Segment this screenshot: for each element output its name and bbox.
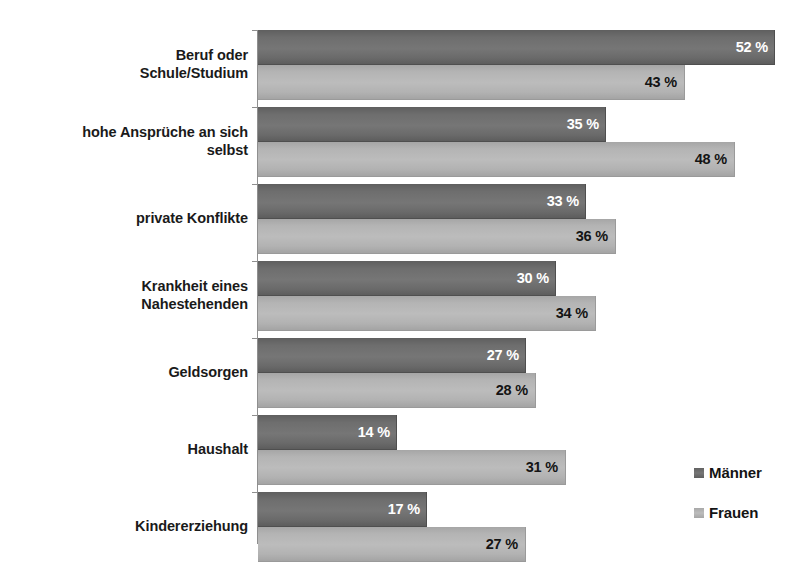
category-label-5: Haushalt (188, 441, 248, 459)
bar-value-label: 48 % (695, 151, 727, 167)
category-label-line: Beruf oder (140, 47, 248, 65)
bar-value-label: 14 % (358, 424, 390, 440)
bar-value-label: 35 % (567, 116, 599, 132)
bar-frauen-0: 43 % (258, 65, 685, 100)
bar-group: 52 %43 % (258, 30, 803, 100)
category-label-column: Beruf oderSchule/Studiumhohe Ansprüche a… (0, 30, 248, 544)
bar-frauen-1: 48 % (258, 142, 735, 177)
category-label-4: Geldsorgen (168, 364, 248, 382)
bar-mnner-6: 17 % (258, 492, 427, 527)
category-label-line: Geldsorgen (168, 364, 248, 382)
bar-frauen-2: 36 % (258, 219, 616, 254)
chart-legend: MännerFrauen (694, 464, 762, 544)
category-label-line: Krankheit eines (141, 278, 248, 296)
legend-swatch-icon (694, 508, 704, 518)
category-label-line: Nahestehenden (141, 296, 248, 314)
bar-frauen-5: 31 % (258, 450, 566, 485)
category-label-line: selbst (82, 142, 248, 160)
category-label-line: private Konflikte (136, 210, 248, 228)
bar-value-label: 36 % (576, 228, 608, 244)
category-label-3: Krankheit einesNahestehenden (141, 278, 248, 313)
bar-value-label: 31 % (526, 459, 558, 475)
bar-mnner-0: 52 % (258, 30, 775, 65)
bar-value-label: 52 % (736, 39, 768, 55)
category-label-line: Schule/Studium (140, 65, 248, 83)
bar-value-label: 27 % (487, 347, 519, 363)
bar-mnner-5: 14 % (258, 415, 397, 450)
bar-mnner-2: 33 % (258, 184, 586, 219)
bar-value-label: 33 % (547, 193, 579, 209)
bar-mnner-3: 30 % (258, 261, 556, 296)
category-label-line: hohe Ansprüche an sich (82, 124, 248, 142)
legend-item-frauen[interactable]: Frauen (694, 504, 762, 521)
bar-frauen-6: 27 % (258, 527, 526, 562)
bar-group: 27 %28 % (258, 338, 803, 408)
bar-value-label: 17 % (388, 501, 420, 517)
bar-group: 35 %48 % (258, 107, 803, 177)
category-label-0: Beruf oderSchule/Studium (140, 47, 248, 82)
category-label-1: hohe Ansprüche an sichselbst (82, 124, 248, 159)
bar-group: 30 %34 % (258, 261, 803, 331)
bar-value-label: 28 % (496, 382, 528, 398)
bar-mnner-1: 35 % (258, 107, 606, 142)
bar-group: 33 %36 % (258, 184, 803, 254)
bar-value-label: 27 % (486, 536, 518, 552)
bar-value-label: 43 % (645, 74, 677, 90)
category-label-2: private Konflikte (136, 210, 248, 228)
bar-value-label: 34 % (556, 305, 588, 321)
legend-item-mnner[interactable]: Männer (694, 464, 762, 481)
bar-chart: Beruf oderSchule/Studiumhohe Ansprüche a… (0, 0, 803, 566)
bar-frauen-4: 28 % (258, 373, 536, 408)
legend-label: Frauen (709, 504, 758, 521)
category-label-6: Kindererziehung (135, 518, 248, 536)
bar-value-label: 30 % (517, 270, 549, 286)
bar-frauen-3: 34 % (258, 296, 596, 331)
category-label-line: Kindererziehung (135, 518, 248, 536)
bar-mnner-4: 27 % (258, 338, 526, 373)
category-label-line: Haushalt (188, 441, 248, 459)
legend-label: Männer (709, 464, 762, 481)
legend-swatch-icon (694, 468, 704, 478)
